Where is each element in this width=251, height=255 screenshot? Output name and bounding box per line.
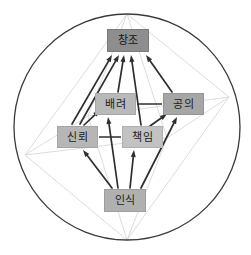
node-changjo[interactable]: 창조	[107, 29, 149, 52]
node-label-sinroe: 신뢰	[67, 131, 88, 142]
arrow-insik-to-sinroe	[83, 150, 112, 188]
node-label-gongui: 공의	[173, 98, 194, 109]
arrow-chaegim-to-gongui	[150, 114, 167, 126]
node-sinroe[interactable]: 신뢰	[57, 126, 98, 148]
arrow-head	[107, 117, 112, 124]
node-gongui[interactable]: 공의	[163, 93, 204, 115]
wireframe-edge-bottom-right	[127, 97, 229, 240]
arrow-head	[172, 117, 177, 124]
arrow-insik-to-baeryeo	[107, 117, 118, 188]
arrow-head	[113, 55, 119, 62]
node-label-insik: 인식	[115, 195, 136, 206]
node-insik[interactable]: 인식	[104, 189, 146, 212]
arrow-shaft	[150, 118, 161, 126]
arrow-shaft	[87, 156, 112, 188]
diagram-canvas: 창조배려공의신뢰책임인식	[0, 0, 251, 255]
node-label-changjo: 창조	[118, 35, 139, 46]
arrow-head	[131, 150, 136, 157]
node-label-baeryeo: 배려	[105, 98, 126, 109]
arrow-shaft	[118, 62, 123, 92]
arrow-baeryeo-to-changjo	[118, 55, 125, 92]
node-baeryeo[interactable]: 배려	[95, 93, 136, 115]
node-chaegim[interactable]: 책임	[122, 126, 163, 148]
arrow-head	[106, 55, 112, 62]
arrow-shaft	[109, 124, 118, 188]
arrow-shaft	[130, 157, 133, 188]
arrow-head	[120, 55, 125, 62]
arrow-insik-to-chaegim	[130, 150, 136, 188]
arrow-shaft	[84, 115, 95, 125]
arrow-shaft	[150, 61, 172, 92]
node-label-chaegim: 책임	[132, 131, 153, 142]
arrow-head	[130, 55, 135, 62]
